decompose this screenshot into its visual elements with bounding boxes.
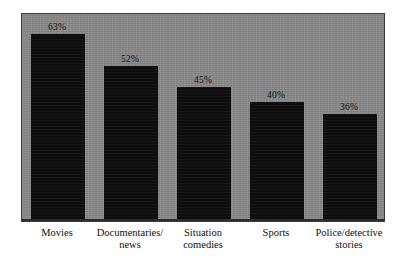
value-label-documentaries-news: 52%	[103, 54, 157, 64]
bar-situation-comedies	[177, 87, 231, 220]
bar-police-detective-stories	[323, 114, 377, 220]
value-label-sports: 40%	[249, 90, 303, 100]
bar-movies	[31, 34, 85, 220]
plot-area	[21, 13, 385, 222]
bar-documentaries-news	[104, 66, 158, 220]
x-axis-baseline	[22, 219, 384, 221]
bar-sports	[250, 102, 304, 220]
value-label-movies: 63%	[30, 22, 84, 32]
category-label-police-detective-stories: Police/detective stories	[301, 227, 397, 251]
bar-chart-figure: 63% 52% 45% 40% 36% Movies Documentaries…	[0, 0, 405, 268]
value-label-police-detective-stories: 36%	[322, 102, 376, 112]
value-label-situation-comedies: 45%	[176, 75, 230, 85]
